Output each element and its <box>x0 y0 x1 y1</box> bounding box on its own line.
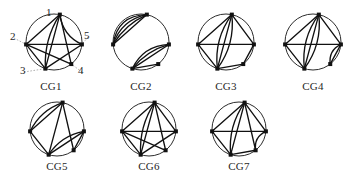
graph-cg1: 12345 <box>8 6 94 78</box>
graph-vertex <box>230 13 234 17</box>
graph-edge <box>63 103 74 151</box>
graph-edge <box>26 15 60 45</box>
graph-vertex <box>61 101 65 105</box>
graph-vertex <box>243 101 247 105</box>
graph-canvas-cg3 <box>187 6 265 78</box>
graph-canvas-cg6 <box>110 98 188 160</box>
graph-vertex <box>111 42 115 46</box>
graph-cg6 <box>110 98 188 160</box>
vertex-label-1: 1 <box>46 7 52 18</box>
graph-vertex <box>130 67 134 71</box>
graph-edge <box>255 131 266 150</box>
graph-vertex <box>339 42 343 46</box>
vertex-label-5: 5 <box>84 30 90 41</box>
graph-vertex <box>69 62 73 66</box>
graph-vertex <box>80 42 84 46</box>
graph-vertex <box>283 42 287 46</box>
graph-vertex <box>139 153 143 157</box>
label-leader-line <box>24 69 45 72</box>
graph-vertex <box>153 101 157 105</box>
graph-edge <box>198 15 232 45</box>
graph-vertex <box>156 62 160 66</box>
graph-vertex <box>229 153 233 157</box>
graph-canvas-cg2 <box>102 6 180 78</box>
graph-vertex <box>58 13 62 17</box>
graph-cg2 <box>102 6 180 78</box>
graph-edge <box>30 103 63 132</box>
graph-vertex <box>241 62 245 66</box>
enclosing-circle <box>30 102 84 156</box>
caption-cg3: CG3 <box>187 80 265 92</box>
enclosing-circle <box>26 14 82 70</box>
vertex-label-4: 4 <box>78 65 84 76</box>
graph-canvas-cg5 <box>18 98 96 160</box>
enclosing-circle <box>113 14 169 70</box>
graph-vertex <box>317 13 321 17</box>
graph-edge <box>243 44 254 64</box>
enclosing-circle <box>212 102 266 156</box>
graph-vertex <box>47 153 51 157</box>
graph-vertex <box>24 42 28 46</box>
vertex-label-3: 3 <box>20 65 26 76</box>
graph-vertex <box>254 148 258 152</box>
graph-edge <box>30 131 49 154</box>
graph-vertex <box>302 67 306 71</box>
graph-vertex <box>264 129 268 133</box>
graph-figure-sheet: 12345CG1CG2CG3CG4CG5CG6CG7 <box>0 0 361 183</box>
graph-edge <box>285 44 304 68</box>
graph-edge <box>212 131 231 154</box>
graph-vertex <box>210 129 214 133</box>
graph-cg7 <box>200 98 278 160</box>
graph-vertex <box>164 148 168 152</box>
graph-vertex <box>215 67 219 71</box>
caption-cg5: CG5 <box>18 160 96 172</box>
graph-vertex <box>43 67 47 71</box>
caption-cg1: CG1 <box>8 80 94 92</box>
graph-vertex <box>328 62 332 66</box>
caption-cg4: CG4 <box>274 80 352 92</box>
graph-vertex <box>82 129 86 133</box>
graph-vertex <box>72 148 76 152</box>
graph-cg4 <box>274 6 352 78</box>
graph-vertex <box>28 129 32 133</box>
graph-cg5 <box>18 98 96 160</box>
graph-canvas-cg4 <box>274 6 352 78</box>
graph-vertex <box>145 13 149 17</box>
graph-edge <box>122 103 155 132</box>
graph-vertex <box>196 42 200 46</box>
graph-vertex <box>174 129 178 133</box>
graph-edge <box>212 103 245 132</box>
graph-vertex <box>120 129 124 133</box>
enclosing-circle <box>122 102 176 156</box>
graph-vertex <box>252 42 256 46</box>
graph-edge <box>198 44 217 68</box>
vertex-label-2: 2 <box>10 31 16 42</box>
caption-cg2: CG2 <box>102 80 180 92</box>
caption-cg6: CG6 <box>110 160 188 172</box>
graph-cg3 <box>187 6 265 78</box>
graph-vertex <box>167 42 171 46</box>
caption-cg7: CG7 <box>200 160 278 172</box>
graph-canvas-cg7 <box>200 98 278 160</box>
graph-edge <box>285 15 319 45</box>
